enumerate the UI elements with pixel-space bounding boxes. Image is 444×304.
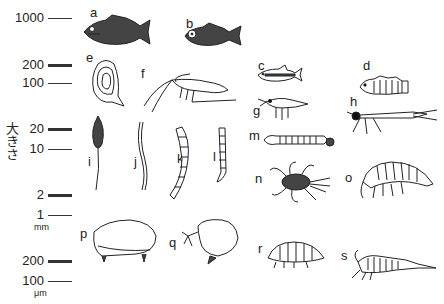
tick-label-20: 20 [2, 122, 44, 136]
chironomid-larva-icon [168, 125, 198, 205]
fish-goby-icon [358, 73, 410, 97]
insect-larva-icon [343, 106, 441, 136]
tick-label-10: 10 [2, 142, 44, 156]
water-mite-icon [268, 160, 332, 204]
unit-um: μm [34, 288, 47, 298]
fish-carp-icon [183, 21, 243, 51]
worm-icon [134, 120, 148, 192]
isopod-icon [264, 236, 328, 270]
cladoceran-icon [180, 218, 244, 268]
label-m: m [249, 129, 260, 142]
tick-mark [48, 260, 72, 263]
tick-mark [48, 64, 72, 67]
amphipod-icon [357, 158, 439, 200]
label-s: s [341, 249, 348, 262]
tick-mark [48, 18, 72, 19]
fish-minnow-icon [257, 63, 303, 85]
tick-label-100um: 100 [2, 274, 44, 288]
tick-label-1000: 1000 [2, 11, 44, 25]
bivalve-shell-icon [90, 58, 126, 110]
label-d: d [363, 59, 370, 72]
tick-mark [48, 215, 72, 216]
label-r: r [258, 242, 262, 255]
tick-label-200um: 200 [2, 254, 44, 268]
fish-bass-icon [82, 14, 152, 48]
copepod-icon [348, 248, 440, 282]
tick-mark [48, 128, 72, 131]
small-larva-icon [215, 126, 229, 184]
label-p: p [80, 227, 87, 240]
tick-label-200: 200 [2, 58, 44, 72]
leech-icon [88, 114, 108, 192]
segmented-larva-icon [262, 128, 336, 150]
tick-label-1: 1 [2, 208, 44, 222]
tick-mark [48, 281, 72, 282]
aquatic-larva-icon [258, 96, 310, 122]
tick-mark [48, 149, 72, 150]
shrimp-icon [142, 72, 237, 114]
tick-label-100: 100 [2, 76, 44, 90]
label-o: o [345, 171, 352, 184]
tick-mark [48, 194, 72, 197]
tick-label-2: 2 [2, 188, 44, 202]
ostracod-icon [90, 218, 160, 264]
label-n: n [255, 172, 262, 185]
unit-mm: mm [34, 222, 49, 232]
tick-mark [48, 83, 72, 84]
label-q: q [169, 236, 176, 249]
